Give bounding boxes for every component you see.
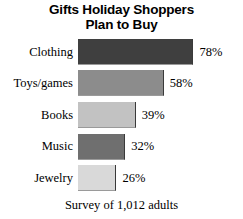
value-label-jewelry: 26% [122,172,145,185]
bar-chart: Gifts Holiday Shoppers Plan to Buy Cloth… [0,0,243,219]
bar-row: Toys/games 58% [0,68,243,100]
value-label-toys-games: 58% [170,77,193,90]
category-label-music: Music [0,140,78,153]
bar-toys-games [78,70,164,96]
bar-clothing [78,39,193,65]
bar-track: 32% [78,131,243,163]
category-label-jewelry: Jewelry [0,172,78,185]
value-label-clothing: 78% [199,46,222,59]
value-label-music: 32% [131,140,154,153]
bar-track: 78% [78,36,243,68]
bar-row: Clothing 78% [0,36,243,68]
chart-footnote: Survey of 1,012 adults [0,198,243,213]
value-label-books: 39% [142,109,165,122]
bar-row: Books 39% [0,99,243,131]
bar-music [78,134,125,160]
chart-title-line-1: Gifts Holiday Shoppers [0,2,243,17]
plot-area: Clothing 78% Toys/games 58% Books 39% Mu… [0,36,243,194]
bar-row: Jewelry 26% [0,162,243,194]
category-label-clothing: Clothing [0,46,78,59]
bar-track: 39% [78,99,243,131]
bar-track: 26% [78,162,243,194]
category-label-toys-games: Toys/games [0,77,78,90]
bar-track: 58% [78,68,243,100]
chart-title-line-2: Plan to Buy [0,17,243,32]
chart-title: Gifts Holiday Shoppers Plan to Buy [0,0,243,32]
bar-jewelry [78,165,116,191]
bar-row: Music 32% [0,131,243,163]
bar-books [78,102,136,128]
category-label-books: Books [0,109,78,122]
